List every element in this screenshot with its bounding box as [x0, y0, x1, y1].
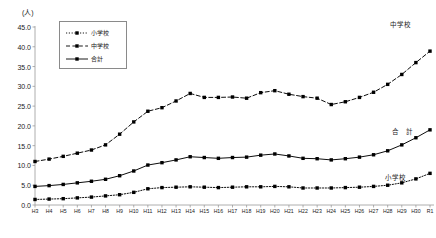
data-point-marker — [33, 160, 36, 163]
data-point-marker — [273, 152, 276, 155]
data-point-marker — [118, 193, 121, 196]
data-point-marker — [231, 156, 234, 159]
data-point-marker — [386, 83, 389, 86]
data-point-marker — [358, 96, 361, 99]
data-point-marker — [47, 197, 50, 200]
data-point-marker — [47, 184, 50, 187]
data-point-marker — [62, 155, 65, 158]
data-point-marker — [301, 157, 304, 160]
data-point-marker — [62, 197, 65, 200]
data-point-marker — [400, 73, 403, 76]
data-point-marker — [90, 148, 93, 151]
data-point-marker — [273, 185, 276, 188]
data-point-marker — [287, 185, 290, 188]
data-point-marker — [188, 155, 191, 158]
series-annotation-chugakko: 中学校 — [390, 19, 411, 29]
data-point-marker — [287, 93, 290, 96]
chart-legend: 小学校 中学校 合計 — [59, 21, 127, 69]
legend-item-goukei: 合計 — [66, 52, 126, 65]
data-point-marker — [315, 97, 318, 100]
legend-label-shougakko: 小学校 — [91, 28, 109, 37]
data-point-marker — [174, 158, 177, 161]
legend-swatch-chugakko — [66, 41, 88, 51]
data-point-marker — [231, 95, 234, 98]
data-point-marker — [245, 185, 248, 188]
data-point-marker — [132, 169, 135, 172]
data-point-marker — [358, 186, 361, 189]
data-point-marker — [330, 103, 333, 106]
data-point-marker — [160, 106, 163, 109]
data-point-marker — [259, 91, 262, 94]
legend-item-chugakko: 中学校 — [66, 39, 126, 52]
line-chart: (人) 45.040.035.030.025.020.015.010.05.00… — [0, 0, 436, 238]
data-point-marker — [104, 143, 107, 146]
data-point-marker — [245, 155, 248, 158]
data-point-marker — [160, 186, 163, 189]
data-point-marker — [203, 186, 206, 189]
legend-item-shougakko: 小学校 — [66, 26, 126, 39]
data-point-marker — [33, 185, 36, 188]
data-point-marker — [188, 185, 191, 188]
data-point-marker — [273, 89, 276, 92]
data-point-marker — [118, 174, 121, 177]
data-point-marker — [76, 151, 79, 154]
data-point-marker — [76, 196, 79, 199]
data-point-marker — [160, 161, 163, 164]
data-point-marker — [330, 186, 333, 189]
series-annotation-shougakko: 小学校 — [385, 172, 406, 182]
data-point-marker — [62, 183, 65, 186]
data-point-marker — [104, 194, 107, 197]
data-point-marker — [301, 95, 304, 98]
data-point-marker — [217, 186, 220, 189]
data-point-marker — [386, 184, 389, 187]
data-point-marker — [90, 180, 93, 183]
data-point-marker — [372, 153, 375, 156]
data-point-marker — [414, 177, 417, 180]
legend-swatch-goukei — [66, 54, 88, 64]
data-point-marker — [315, 186, 318, 189]
data-point-marker — [217, 96, 220, 99]
data-point-marker — [132, 120, 135, 123]
data-point-marker — [174, 186, 177, 189]
data-point-marker — [428, 172, 431, 175]
data-point-marker — [372, 91, 375, 94]
data-point-marker — [33, 198, 36, 201]
data-point-marker — [203, 96, 206, 99]
data-point-marker — [146, 163, 149, 166]
data-point-marker — [358, 155, 361, 158]
data-point-marker — [203, 156, 206, 159]
data-point-marker — [132, 191, 135, 194]
data-point-marker — [344, 100, 347, 103]
data-point-marker — [344, 157, 347, 160]
data-point-marker — [414, 61, 417, 64]
data-point-marker — [259, 185, 262, 188]
data-point-marker — [428, 49, 431, 52]
data-point-marker — [146, 187, 149, 190]
data-point-marker — [315, 157, 318, 160]
data-point-marker — [76, 181, 79, 184]
data-point-marker — [428, 128, 431, 131]
data-point-marker — [47, 157, 50, 160]
data-point-marker — [330, 158, 333, 161]
data-point-marker — [245, 97, 248, 100]
data-point-marker — [372, 185, 375, 188]
legend-swatch-shougakko — [66, 28, 88, 38]
data-point-marker — [146, 110, 149, 113]
data-point-marker — [188, 92, 191, 95]
data-point-marker — [217, 157, 220, 160]
series-annotation-goukei: 合 計 — [392, 126, 413, 136]
legend-label-chugakko: 中学校 — [91, 41, 109, 50]
data-point-marker — [400, 143, 403, 146]
data-point-marker — [344, 186, 347, 189]
data-point-marker — [231, 186, 234, 189]
data-point-marker — [118, 132, 121, 135]
data-point-marker — [287, 154, 290, 157]
data-point-marker — [301, 186, 304, 189]
data-point-marker — [386, 149, 389, 152]
legend-label-goukei: 合計 — [91, 54, 103, 63]
data-point-marker — [104, 178, 107, 181]
data-point-marker — [90, 195, 93, 198]
data-point-marker — [174, 99, 177, 102]
data-point-marker — [414, 136, 417, 139]
data-point-marker — [259, 153, 262, 156]
